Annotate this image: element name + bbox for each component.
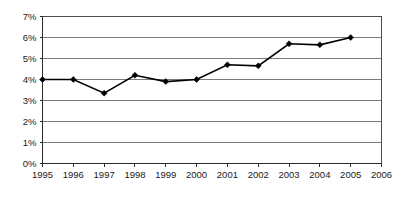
x-tick-label-1995: 1995 [32, 169, 53, 180]
x-tick-label-1996: 1996 [63, 169, 84, 180]
x-tick-label-2003: 2003 [278, 169, 299, 180]
gridlines [43, 17, 382, 143]
y-tick-label-6: 6% [23, 32, 37, 43]
line-chart: 0%1%2%3%4%5%6%7% 19951996199719981999200… [0, 0, 406, 198]
data-point-2000 [194, 77, 200, 83]
data-point-2001 [224, 62, 230, 68]
axes [40, 17, 382, 164]
chart-canvas: 0%1%2%3%4%5%6%7% 19951996199719981999200… [0, 0, 406, 198]
plot-border-rect [43, 17, 382, 164]
x-tick-label-1998: 1998 [124, 169, 145, 180]
data-point-1995 [40, 77, 46, 83]
y-tick-label-1: 1% [23, 137, 37, 148]
x-tick-label-2005: 2005 [340, 169, 361, 180]
x-tick-label-2004: 2004 [309, 169, 330, 180]
y-tick-label-2: 2% [23, 116, 37, 127]
data-point-1996 [70, 77, 76, 83]
x-tick-label-1997: 1997 [94, 169, 115, 180]
x-tick-label-1999: 1999 [155, 169, 176, 180]
data-point-2005 [348, 35, 354, 41]
y-tick-label-0: 0% [23, 158, 37, 169]
x-tick-label-2006: 2006 [371, 169, 392, 180]
series-line-path [43, 38, 351, 94]
x-tick-label-2002: 2002 [248, 169, 269, 180]
y-tick-label-4: 4% [23, 74, 37, 85]
y-axis-tick-labels: 0%1%2%3%4%5%6%7% [23, 11, 37, 169]
y-tick-label-5: 5% [23, 53, 37, 64]
y-tick-label-7: 7% [23, 11, 37, 22]
plot-area-border [43, 17, 382, 164]
data-point-2004 [317, 42, 323, 48]
x-tick-label-2001: 2001 [217, 169, 238, 180]
y-tick-label-3: 3% [23, 95, 37, 106]
x-axis-tick-labels: 1995199619971998199920002001200220032004… [32, 169, 392, 180]
x-tick-label-2000: 2000 [186, 169, 207, 180]
data-series [43, 38, 351, 94]
